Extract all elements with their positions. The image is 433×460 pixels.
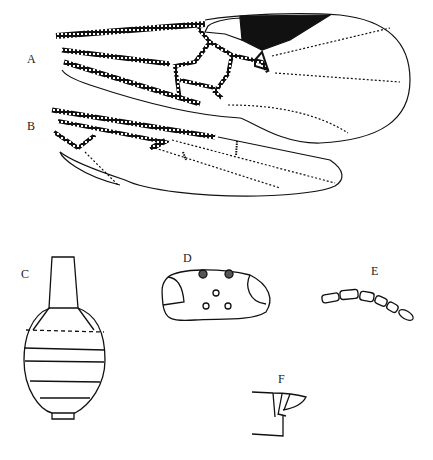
panel-label-b: B xyxy=(27,120,35,132)
panel-label-e: E xyxy=(371,265,378,277)
ovipositor-drawing xyxy=(252,392,306,436)
panel-label-d: D xyxy=(183,252,192,264)
figure-drawing xyxy=(0,0,433,460)
panel-label-a: A xyxy=(27,53,36,65)
scientific-figure: A B C D E F xyxy=(0,0,433,460)
antenna-drawing xyxy=(321,289,415,322)
forewing-drawing xyxy=(56,14,410,143)
head-drawing xyxy=(162,270,270,321)
panel-label-c: C xyxy=(21,268,29,280)
panel-label-f: F xyxy=(278,373,285,385)
hindwing-drawing xyxy=(52,110,342,196)
gaster-drawing xyxy=(24,257,105,419)
